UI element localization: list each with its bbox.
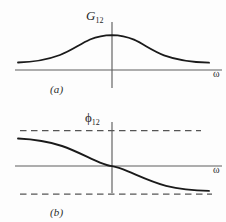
panel-b-y-axis-label-subscript: 12 xyxy=(92,118,100,127)
panel-a-caption: (a) xyxy=(50,83,63,95)
figure-container: G12 ϕ12 ω ω (a) (b) xyxy=(0,0,226,222)
panel-a-plot xyxy=(15,22,222,88)
panel-b-plot xyxy=(15,122,222,194)
panel-b-y-axis-label-text: ϕ xyxy=(85,110,92,125)
panel-a-curve-g12 xyxy=(18,35,209,63)
panel-b-y-axis-label: ϕ12 xyxy=(85,110,100,126)
panel-a-x-axis-label: ω xyxy=(213,68,220,79)
panel-b-caption: (b) xyxy=(50,206,63,218)
panel-a-y-axis-label: G12 xyxy=(86,8,103,24)
panel-b-x-axis-label: ω xyxy=(213,164,220,175)
panel-b-curve-phi12 xyxy=(18,139,209,191)
panel-a-y-axis-label-text: G xyxy=(86,8,95,23)
panel-a-y-axis-label-subscript: 12 xyxy=(95,16,103,25)
figure-canvas xyxy=(0,0,226,222)
